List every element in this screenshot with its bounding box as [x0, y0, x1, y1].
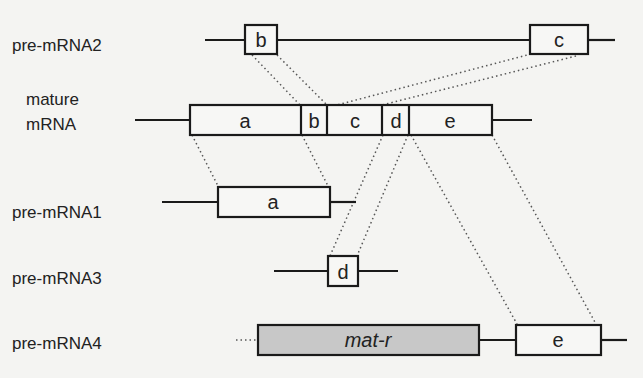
label-pre-mrna2: pre-mRNA2	[12, 36, 102, 55]
label-pre-mrna1: pre-mRNA1	[12, 203, 102, 222]
label-mature-line2: mRNA	[26, 115, 77, 134]
exon-d-mature-label: d	[390, 110, 401, 132]
exon-c-pre2-label: c	[554, 29, 564, 51]
splicing-diagram: pre-mRNA2 mature mRNA pre-mRNA1 pre-mRNA…	[0, 0, 643, 378]
label-pre-mrna4: pre-mRNA4	[12, 334, 102, 353]
exon-e-mature-label: e	[444, 110, 455, 132]
exon-a-mature-label: a	[239, 110, 251, 132]
pre-mrna1-track: a	[162, 187, 356, 217]
mat-r-label: mat-r	[345, 329, 393, 351]
pre-mrna3-track: d	[274, 256, 398, 286]
exon-b-pre2-label: b	[255, 29, 266, 51]
pre-mrna2-track: b c	[205, 25, 615, 54]
exon-e-pre4-label: e	[552, 329, 563, 351]
label-mature-line1: mature	[26, 90, 79, 109]
exon-b-mature-label: b	[308, 110, 319, 132]
label-pre-mrna3: pre-mRNA3	[12, 269, 102, 288]
exon-c-mature-label: c	[350, 110, 360, 132]
mature-mrna-track: a b c d e	[135, 105, 532, 135]
pre-mrna4-track: mat-r e	[258, 325, 627, 355]
exon-a-pre1-label: a	[267, 191, 279, 213]
exon-d-pre3-label: d	[337, 261, 348, 283]
